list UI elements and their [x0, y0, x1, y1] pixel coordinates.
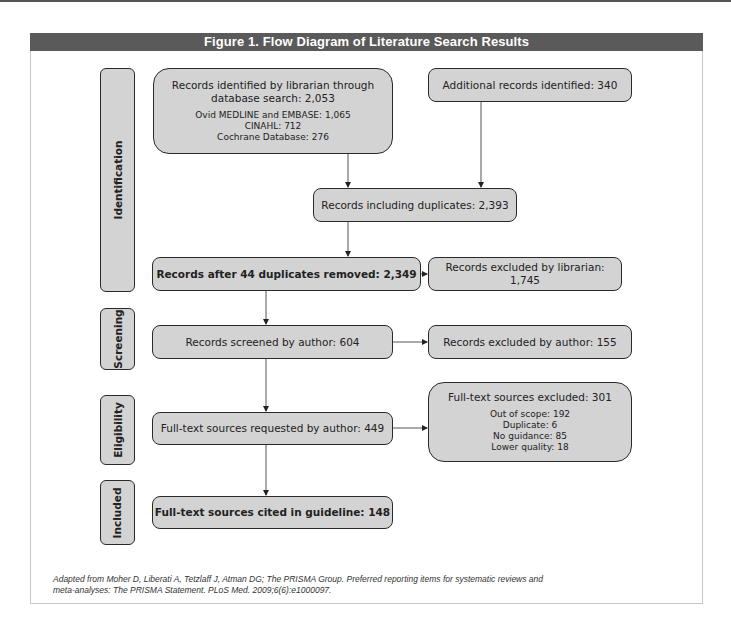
box-details: Out of scope: 192 Duplicate: 6 No guidan… [490, 409, 570, 453]
stage-label: Identification [112, 140, 124, 219]
box-including-duplicates: Records including duplicates: 2,393 [313, 188, 517, 222]
box-text: Full-text sources excluded: 301 [448, 391, 612, 404]
figure-title: Figure 1. Flow Diagram of Literature Sea… [30, 33, 703, 51]
box-after-duplicates-removed: Records after 44 duplicates removed: 2,3… [152, 257, 421, 291]
box-fulltext-excluded: Full-text sources excluded: 301 Out of s… [428, 382, 632, 462]
caption-line: Adapted from Moher D, Liberati A, Tetzla… [53, 574, 673, 585]
box-text: Full-text sources cited in guideline: 14… [155, 506, 390, 519]
detail-item: Out of scope: 192 [490, 409, 570, 420]
box-excluded-by-librarian: Records excluded by librarian: 1,745 [428, 257, 622, 291]
top-rule [0, 0, 731, 2]
box-text: Records identified by librarian through [172, 79, 374, 92]
stage-identification: Identification [100, 68, 135, 292]
stage-label: Included [112, 487, 124, 538]
box-text: Records screened by author: 604 [185, 336, 359, 349]
stage-label: Screening [112, 309, 124, 368]
detail-item: Lower quality: 18 [490, 442, 570, 453]
box-details: Ovid MEDLINE and EMBASE: 1,065 CINAHL: 7… [195, 110, 350, 143]
box-text: Full-text sources requested by author: 4… [161, 422, 384, 435]
figure-caption: Adapted from Moher D, Liberati A, Tetzla… [53, 574, 673, 596]
box-cited-in-guideline: Full-text sources cited in guideline: 14… [152, 496, 393, 529]
detail-item: Cochrane Database: 276 [195, 132, 350, 143]
detail-item: No guidance: 85 [490, 431, 570, 442]
stage-label: Eligibility [112, 402, 124, 458]
box-additional-records: Additional records identified: 340 [428, 68, 632, 102]
box-text: database search: 2,053 [211, 92, 335, 105]
box-text: Records excluded by author: 155 [443, 336, 616, 349]
detail-item: Duplicate: 6 [490, 420, 570, 431]
box-text: Records excluded by librarian: 1,745 [429, 261, 621, 287]
box-excluded-by-author: Records excluded by author: 155 [428, 325, 632, 359]
detail-item: CINAHL: 712 [195, 121, 350, 132]
stage-included: Included [100, 480, 135, 545]
box-text: Records after 44 duplicates removed: 2,3… [156, 268, 416, 281]
detail-item: Ovid MEDLINE and EMBASE: 1,065 [195, 110, 350, 121]
box-text: Records including duplicates: 2,393 [321, 199, 508, 212]
stage-screening: Screening [100, 308, 135, 370]
box-librarian-records: Records identified by librarian through … [153, 68, 393, 154]
box-screened-by-author: Records screened by author: 604 [152, 325, 393, 359]
stage-eligibility: Eligibility [100, 395, 135, 465]
caption-line: meta-analyses: The PRISMA Statement. PLo… [53, 585, 673, 596]
box-text: Additional records identified: 340 [443, 79, 618, 92]
box-fulltext-requested: Full-text sources requested by author: 4… [152, 412, 393, 445]
